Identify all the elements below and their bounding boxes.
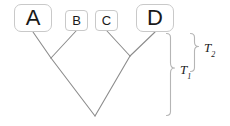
branch-b (51, 31, 76, 58)
branch-ab-root (51, 58, 95, 116)
branch-a (33, 32, 51, 58)
branch-cd-root (95, 56, 130, 116)
taxon-label-c: C (102, 14, 111, 27)
brace-inner-t2 (191, 34, 199, 72)
time-label-t1: T1 (180, 61, 191, 80)
time-label-t2-subscript: 2 (211, 50, 215, 59)
time-label-t1-subscript: 1 (187, 72, 191, 81)
tree-branches (33, 31, 155, 116)
taxon-box-d[interactable]: D (136, 4, 174, 32)
brace-outer-t1 (167, 34, 175, 116)
taxon-label-a: A (26, 7, 41, 29)
branch-c (107, 31, 130, 56)
taxon-box-c[interactable]: C (95, 10, 118, 31)
phylogenetic-tree-figure: A B C D T1 T2 (0, 0, 230, 126)
taxon-label-d: D (147, 7, 163, 29)
branch-d (130, 32, 155, 56)
time-label-t2: T2 (204, 39, 215, 58)
taxon-label-b: B (72, 14, 81, 27)
taxon-box-a[interactable]: A (14, 4, 52, 32)
taxon-box-b[interactable]: B (65, 10, 88, 31)
